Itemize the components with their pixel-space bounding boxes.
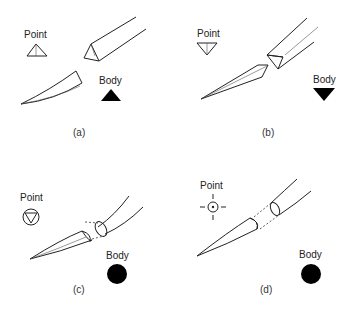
point-label-c: Point [20,192,43,203]
point-cross-section-triangle-icon [27,44,47,56]
body-label-b: Body [313,74,336,85]
point-label-b: Point [197,28,220,39]
body-cross-section-filled-triangle-icon [101,89,121,101]
needle-point-b [201,65,268,99]
point-cross-section-inverted-triangle-icon [197,43,217,55]
caption-b: (b) [262,127,274,138]
needle-point-diagram: Point Body (a) Point [0,0,353,309]
caption-d: (d) [260,284,272,295]
needle-point-a [21,71,82,104]
body-cross-section-filled-inverted-triangle-icon [313,88,335,101]
needle-body-b [267,18,318,69]
needle-body-d [254,179,311,229]
body-cross-section-filled-circle-icon [107,264,127,284]
needle-point-d [197,218,258,256]
point-label-d: Point [200,180,223,191]
caption-c: (c) [73,284,85,295]
needle-body-a [84,17,146,61]
panel-d: Point Body (d) [197,179,322,295]
body-cross-section-filled-circle-icon [301,264,321,284]
body-label-c: Body [106,250,129,261]
body-label-a: Body [99,75,122,86]
panel-c: Point Body (c) [20,192,143,295]
needle-point-c [30,231,92,259]
point-cross-section-dot-crosshair-icon [200,194,226,220]
panel-a: Point Body (a) [21,17,146,138]
body-label-d: Body [299,249,322,260]
point-label-a: Point [24,29,47,40]
point-cross-section-circle-triangle-icon [23,209,39,225]
needle-body-c [85,196,143,239]
panel-b: Point Body (b) [197,18,336,138]
caption-a: (a) [73,127,85,138]
